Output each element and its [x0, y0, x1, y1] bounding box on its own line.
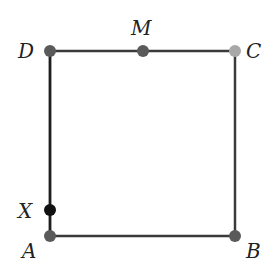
point-A	[44, 230, 56, 242]
point-M	[137, 45, 149, 57]
point-B	[229, 230, 241, 242]
square-diagram: D M C X A B	[0, 0, 274, 267]
label-B: B	[245, 239, 261, 263]
point-C	[229, 45, 241, 57]
point-D	[44, 45, 56, 57]
label-A: A	[20, 239, 36, 263]
label-C: C	[246, 39, 261, 63]
point-X	[44, 204, 56, 216]
label-D: D	[17, 39, 34, 63]
label-X: X	[16, 199, 33, 223]
label-M: M	[130, 16, 152, 40]
